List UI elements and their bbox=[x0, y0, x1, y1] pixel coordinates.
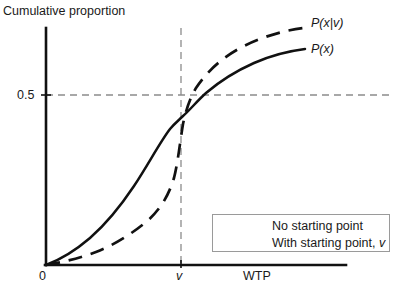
x-tick-label-zero: 0 bbox=[39, 269, 46, 283]
curve-label-conditional: P(x|v) bbox=[311, 16, 343, 30]
chart-plot-area bbox=[0, 0, 395, 300]
chart-legend: No starting point With starting point, v bbox=[212, 214, 390, 252]
legend-item-with-starting-point: With starting point, v bbox=[221, 234, 385, 251]
legend-label-variable-v: v bbox=[379, 236, 385, 250]
legend-swatch-solid bbox=[221, 221, 265, 231]
legend-label-with-starting-point-text: With starting point, bbox=[272, 236, 376, 250]
curve-label-marginal: P(x) bbox=[311, 42, 334, 56]
legend-label-with-starting-point: With starting point, v bbox=[272, 236, 385, 250]
chart-figure: Cumulative proportion WTP 0.5 0 v P(x|v)… bbox=[0, 0, 395, 300]
legend-swatch-dashed bbox=[221, 238, 265, 248]
legend-label-no-starting-point: No starting point bbox=[272, 219, 363, 233]
x-tick-label-v: v bbox=[176, 269, 182, 283]
y-axis-title: Cumulative proportion bbox=[3, 4, 125, 18]
x-axis-title: WTP bbox=[243, 269, 271, 283]
y-tick-label-half: 0.5 bbox=[17, 88, 34, 102]
legend-item-no-starting-point: No starting point bbox=[221, 217, 363, 234]
